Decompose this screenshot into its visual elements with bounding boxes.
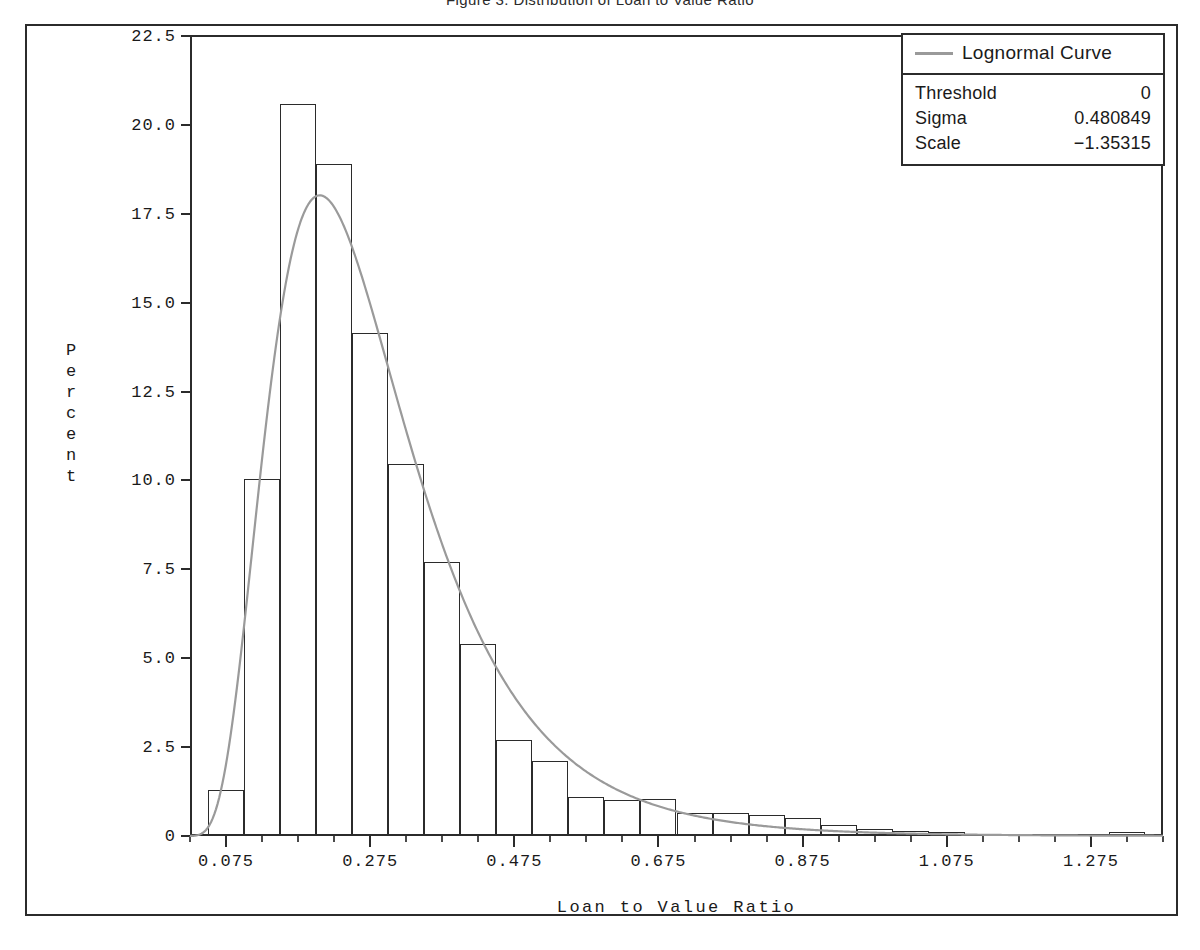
y-tick-mark [181,391,190,393]
x-tick-label: 0.075 [198,852,254,871]
x-tick-label: 1.275 [1063,852,1119,871]
legend-parameter-value: −1.35315 [1074,133,1151,154]
x-tick-mark-minor [477,836,479,842]
legend-curve-entry: Lognormal Curve [903,35,1163,75]
legend-box: Lognormal Curve Threshold0Sigma0.480849S… [901,33,1165,166]
x-tick-mark-minor [1018,836,1020,842]
x-axis-title: Loan to Value Ratio [190,898,1163,917]
y-axis-title-letter: r [60,382,82,403]
chart-title: Figure 3. Distribution of Loan to Value … [0,0,1200,8]
y-axis-title-letter: P [60,340,82,361]
y-axis-title-letter: e [60,361,82,382]
x-tick-mark [513,836,515,847]
y-tick-label: 0 [165,827,176,846]
x-tick-mark [369,836,371,847]
x-tick-mark [1090,836,1092,847]
legend-parameter-key: Threshold [915,83,997,104]
y-tick-mark [181,479,190,481]
y-tick-label: 22.5 [131,27,176,46]
x-tick-label: 0.275 [342,852,398,871]
x-tick-mark [657,836,659,847]
x-tick-mark-minor [333,836,335,842]
x-tick-mark-minor [1126,836,1128,842]
y-tick-mark [181,302,190,304]
y-axis-title-letter: n [60,445,82,466]
x-tick-mark-minor [1054,836,1056,842]
y-tick-mark [181,568,190,570]
legend-parameter-list: Threshold0Sigma0.480849Scale−1.35315 [903,75,1163,164]
y-tick-label: 15.0 [131,293,176,312]
chart-canvas: Figure 3. Distribution of Loan to Value … [0,0,1200,950]
x-tick-mark-minor [766,836,768,842]
x-tick-mark-minor [910,836,912,842]
legend-parameter-value: 0.480849 [1074,108,1151,129]
x-tick-mark-minor [549,836,551,842]
x-tick-mark-minor [441,836,443,842]
y-tick-label: 7.5 [142,560,176,579]
y-tick-label: 5.0 [142,649,176,668]
y-tick-mark [181,213,190,215]
legend-curve-label: Lognormal Curve [962,42,1112,64]
x-tick-mark-minor [297,836,299,842]
y-tick-label: 20.0 [131,115,176,134]
x-tick-label: 0.675 [630,852,686,871]
x-tick-mark [802,836,804,847]
x-tick-mark [946,836,948,847]
legend-parameter-row: Threshold0 [903,81,1163,106]
x-tick-label: 1.075 [919,852,975,871]
y-tick-label: 17.5 [131,204,176,223]
x-tick-mark-minor [730,836,732,842]
y-tick-mark [181,35,190,37]
x-tick-mark [225,836,227,847]
legend-parameter-value: 0 [1141,83,1151,104]
y-tick-label: 2.5 [142,738,176,757]
x-tick-mark-minor [621,836,623,842]
y-axis-title: Percent [60,340,82,487]
x-tick-mark-minor [838,836,840,842]
lognormal-curve-path [190,195,1163,836]
x-tick-mark-minor [405,836,407,842]
y-tick-mark [181,657,190,659]
x-tick-mark-minor [261,836,263,842]
x-tick-mark-minor [982,836,984,842]
y-tick-label: 12.5 [131,382,176,401]
legend-parameter-key: Scale [915,133,961,154]
x-tick-mark-minor [874,836,876,842]
y-tick-label: 10.0 [131,471,176,490]
legend-line-swatch-icon [915,52,953,55]
y-axis-title-letter: c [60,403,82,424]
y-axis-title-letter: t [60,466,82,487]
x-tick-label: 0.475 [486,852,542,871]
legend-parameter-row: Scale−1.35315 [903,131,1163,156]
y-tick-mark [181,124,190,126]
x-tick-mark-minor [585,836,587,842]
legend-parameter-key: Sigma [915,108,967,129]
legend-parameter-row: Sigma0.480849 [903,106,1163,131]
x-tick-mark-minor [1162,836,1164,842]
y-tick-mark [181,746,190,748]
y-axis-title-letter: e [60,424,82,445]
x-tick-label: 0.875 [775,852,831,871]
x-tick-mark-minor [694,836,696,842]
